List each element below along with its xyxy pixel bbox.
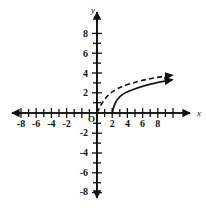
y-tick-label: 8: [83, 28, 88, 39]
y-tick-label: -4: [80, 147, 88, 158]
y-tick-label: -2: [80, 127, 88, 138]
y-axis-label: y: [90, 5, 95, 15]
x-tick-label: -6: [32, 118, 40, 129]
x-tick-label: 8: [155, 118, 160, 129]
y-tick-label: -6: [80, 167, 88, 178]
x-tick-label: -2: [62, 118, 70, 129]
y-tick-label: 2: [83, 87, 88, 98]
coordinate-plane-svg: -8 -6 -4 -2 2 4 6 8 8 6 4 2 -2 -4 -6 -8 …: [0, 0, 206, 208]
graph-figure: -8 -6 -4 -2 2 4 6 8 8 6 4 2 -2 -4 -6 -8 …: [0, 0, 206, 208]
x-tick-label: -4: [47, 118, 55, 129]
x-axis-label: x: [196, 108, 201, 118]
x-tick-label: 4: [125, 118, 130, 129]
y-tick-label: -8: [80, 186, 88, 197]
x-tick-label: 6: [140, 118, 145, 129]
origin-label: O: [88, 114, 95, 124]
x-tick-label: 2: [110, 118, 115, 129]
y-tick-label: 4: [83, 68, 88, 79]
y-tick-label: 6: [83, 48, 88, 59]
x-tick-label: -8: [17, 118, 25, 129]
